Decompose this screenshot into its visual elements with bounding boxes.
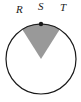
shaded-sector-RST: [22, 23, 60, 59]
label-point-s: S: [38, 1, 44, 12]
point-s-dot: [39, 22, 43, 26]
label-point-r: R: [16, 4, 23, 15]
label-point-t: T: [60, 2, 66, 13]
circle-diagram-canvas: [0, 0, 81, 102]
geometry-figure: R S T: [0, 0, 81, 102]
